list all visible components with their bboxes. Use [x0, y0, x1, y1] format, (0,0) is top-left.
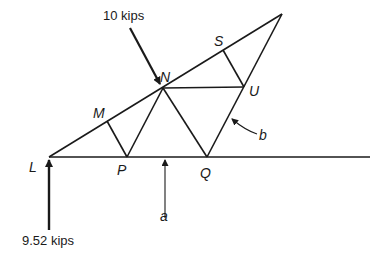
- node-label-S: S: [214, 33, 224, 49]
- member-NU: [163, 87, 244, 88]
- node-label-P: P: [117, 162, 127, 178]
- load-label-top: 10 kips: [103, 8, 145, 23]
- member-SU: [223, 50, 244, 87]
- member-MP: [107, 121, 127, 157]
- node-label-Q: Q: [200, 165, 211, 181]
- member-NQ: [163, 88, 207, 157]
- load-label-reaction: 9.52 kips: [22, 233, 75, 248]
- load-arrow-10kips: [130, 28, 160, 84]
- node-label-M: M: [93, 105, 105, 121]
- node-label-N: N: [160, 69, 171, 85]
- truss-diagram: 10 kips 9.52 kips L M N P Q S U a b: [0, 0, 386, 256]
- section-b-arrow: [232, 119, 257, 134]
- section-label-a: a: [160, 208, 168, 224]
- top-chord: [49, 14, 282, 157]
- section-label-b: b: [259, 127, 267, 143]
- node-label-L: L: [29, 159, 37, 175]
- truss-members: [49, 14, 370, 157]
- node-label-U: U: [249, 83, 260, 99]
